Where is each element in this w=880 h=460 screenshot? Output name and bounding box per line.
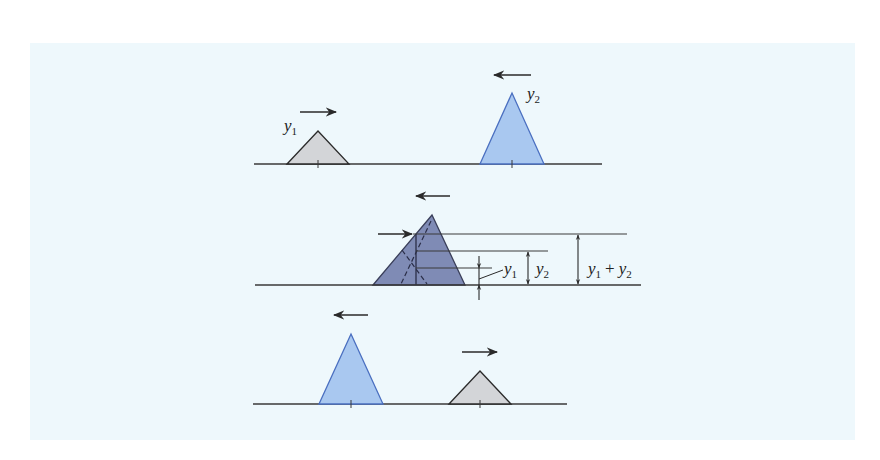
label-y1-top: y1 xyxy=(282,116,297,137)
pulse-y2-bottom xyxy=(319,334,383,404)
superposed-pulse xyxy=(373,215,465,285)
panel-overlap-superposition: y1 y2 y1+y2 xyxy=(255,196,641,300)
label-y1-middle: y1 xyxy=(502,259,517,280)
label-y2-middle: y2 xyxy=(534,259,549,280)
pulse-y1-bottom xyxy=(449,371,511,404)
panel-after-overlap xyxy=(253,315,567,408)
label-y1-plus-y2: y1+y2 xyxy=(586,259,632,280)
panel-before-overlap: y1 y2 xyxy=(254,75,602,168)
leader-line-y1 xyxy=(479,270,503,279)
superposition-diagram: y1 y2 y1 y2 y1+y2 xyxy=(0,0,880,460)
label-y2-top: y2 xyxy=(525,84,540,105)
